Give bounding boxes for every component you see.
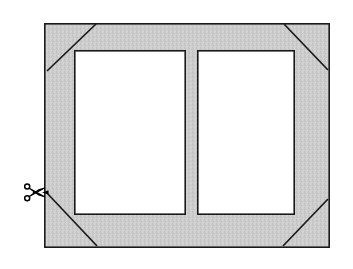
diagram-canvas: [0, 0, 353, 269]
window-opening-left: [75, 51, 185, 214]
cut-here-marker[interactable]: [20, 178, 54, 200]
mat-cutting-diagram: [0, 0, 353, 269]
window-opening-right: [198, 51, 294, 214]
window-openings: [75, 51, 294, 214]
